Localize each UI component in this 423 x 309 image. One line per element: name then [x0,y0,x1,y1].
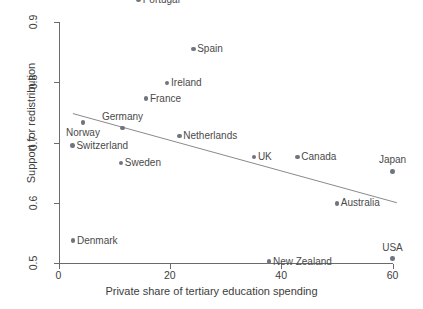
x-tick [393,264,394,269]
point-label: UK [258,152,272,162]
x-tick-label: 60 [378,269,408,281]
x-tick-label: 40 [266,269,296,281]
x-axis-title: Private share of tertiary education spen… [0,285,423,297]
point-label: France [150,94,181,104]
point-label: Japan [379,155,406,165]
y-tick-label: 0.5 [27,250,39,276]
point-label: Netherlands [183,131,237,141]
point-label: USA [382,243,403,253]
data-point [191,47,196,52]
point-label: Switzerland [76,141,128,151]
point-label: Canada [301,152,336,162]
point-label: Sweden [125,158,161,168]
x-axis-line [59,263,393,264]
x-tick-label: 0 [44,269,74,281]
x-tick-label: 20 [155,269,185,281]
x-tick [59,264,60,269]
data-point [81,120,86,125]
point-label: Spain [197,44,223,54]
point-label: Ireland [171,78,202,88]
point-label: Portugal [143,0,180,5]
plot-area: PortugalSpainIrelandFranceGermanyNorwayN… [59,22,393,263]
x-tick [170,264,171,269]
point-label: Norway [66,128,100,138]
data-point [177,134,182,139]
data-point [120,126,125,131]
y-tick-label: 0.9 [27,9,39,35]
data-point [136,0,141,2]
y-axis-title: Support for redistribution [25,33,37,213]
data-point [144,96,149,101]
data-point [390,169,395,174]
point-label: Germany [102,112,143,122]
point-label: New Zealand [273,257,332,267]
point-label: Australia [341,198,380,208]
scatter-plot: 0.50.60.70.80.9 0204060 Support for redi… [0,0,423,309]
data-point [295,155,300,160]
point-label: Denmark [77,236,118,246]
data-point [70,143,75,148]
data-point [390,256,395,261]
data-point [335,201,340,206]
